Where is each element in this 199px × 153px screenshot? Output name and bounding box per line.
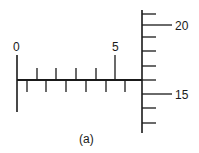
sleeve-lower-ticks: [27, 80, 125, 92]
sleeve-label-0: 0: [13, 40, 20, 54]
micrometer-diagram: 0 5 20 15 (a): [0, 0, 199, 153]
sleeve-label-5: 5: [112, 40, 119, 54]
sleeve-upper-ticks: [37, 55, 115, 80]
thimble-label-15: 15: [175, 88, 189, 102]
thimble-label-20: 20: [175, 19, 189, 33]
figure-caption: (a): [79, 132, 94, 146]
thimble-ticks: [142, 14, 172, 123]
